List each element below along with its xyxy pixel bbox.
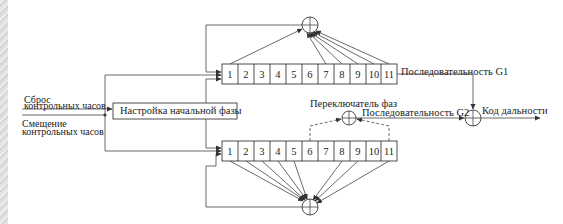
g1-cell-3: 3 [254,64,270,84]
range-code-label: Код дальности [482,106,548,117]
g1-cell-4: 4 [270,64,286,84]
g2-cell-2: 2 [238,141,254,161]
g1-cell-7: 7 [318,64,334,84]
g2-cell-1: 1 [222,141,238,161]
g2-cell-4: 4 [270,141,286,161]
g2-cell-9: 9 [350,141,366,161]
g2-cell-7: 7 [318,141,334,161]
g1-cell-1: 1 [222,64,238,84]
g1-cell-5: 5 [286,64,302,84]
g1-cell-10: 10 [366,64,382,84]
shift-label-line2: контрольных часов [22,127,104,137]
diagram-lines [0,0,563,224]
diagram-canvas: 1 2 3 4 5 6 7 8 9 10 11 1 2 3 4 5 6 7 8 … [0,0,563,224]
g2-cell-3: 3 [254,141,270,161]
g1-cell-11: 11 [381,64,397,84]
g2-cell-8: 8 [334,141,350,161]
g1-cell-6: 6 [302,64,318,84]
g1-output-label: Последовательность G1 [401,67,508,78]
g2-cell-11: 11 [381,141,397,161]
phase-setup-block: Настройка начальной фазы [120,106,242,117]
g1-cell-8: 8 [334,64,350,84]
g2-cell-5: 5 [286,141,302,161]
g2-output-label: Последовательность G2 [362,108,469,119]
g2-cell-10: 10 [366,141,382,161]
g1-cell-2: 2 [238,64,254,84]
g2-cell-6: 6 [302,141,318,161]
g1-cell-9: 9 [350,64,366,84]
reset-label-line2: контрольных часов [24,101,106,111]
